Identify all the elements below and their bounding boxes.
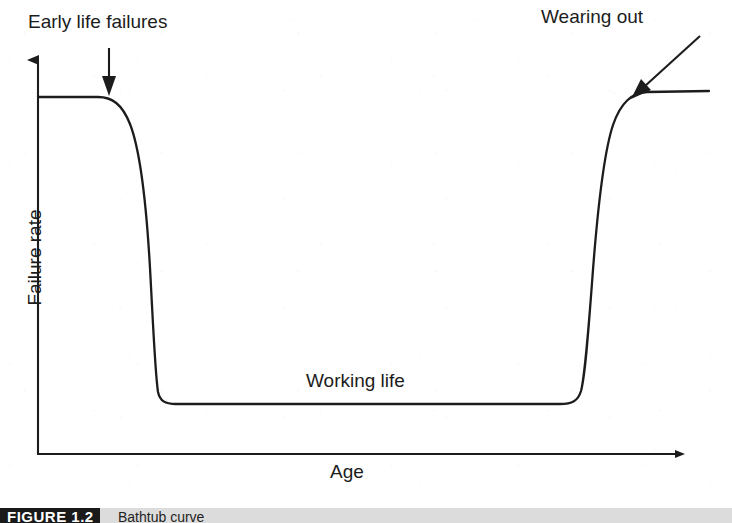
figure-caption-text: Bathtub curve — [100, 508, 732, 523]
wearing-out-callout-arrow — [631, 36, 700, 99]
annotation-early-life-failures: Early life failures — [28, 12, 167, 31]
figure-number: FIGURE 1.2 — [0, 508, 100, 523]
failure-rate-curve — [38, 91, 709, 404]
bathtub-curve-plot — [0, 0, 732, 523]
x-axis-label: Age — [330, 462, 364, 481]
annotation-wearing-out: Wearing out — [541, 7, 643, 26]
figure-bathtub-curve: Early life failures Wearing out Working … — [0, 0, 732, 523]
figure-caption-bar: FIGURE 1.2 Bathtub curve — [0, 508, 732, 523]
early-life-callout-arrow — [102, 48, 116, 96]
annotation-working-life: Working life — [306, 371, 405, 390]
y-axis-label: Failure rate — [25, 203, 44, 313]
